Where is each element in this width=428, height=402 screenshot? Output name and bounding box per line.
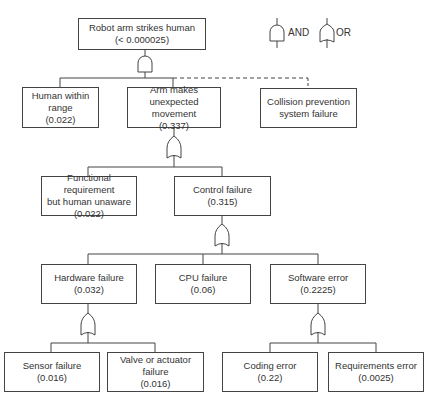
node-value: (0.06) [191, 284, 216, 296]
legend-and-label: AND [288, 27, 309, 38]
node-label: but human unaware [47, 196, 131, 208]
node-value: (0.016) [140, 378, 170, 390]
node-collision-prevention-failure: Collision prevention system failure [260, 88, 357, 128]
or-gate-icon [167, 136, 181, 158]
node-value: (< 0.000025) [115, 34, 169, 46]
legend-or-gate-icon [320, 18, 334, 48]
node-label: Valve or actuator failure [110, 354, 201, 378]
node-value: (0.0025) [358, 372, 393, 384]
legend-or-label: OR [336, 27, 351, 38]
node-value: (0.337) [159, 120, 189, 132]
node-label: Requirements error [335, 360, 417, 372]
fault-tree-diagram: AND OR Robot arm strikes human (< 0.0000… [0, 0, 428, 402]
node-value: (0.2225) [300, 284, 335, 296]
or-gate-icon [311, 313, 325, 335]
node-label: Human within [32, 90, 90, 102]
node-valve-actuator-failure: Valve or actuator failure (0.016) [107, 352, 204, 392]
node-label: Functional requirement [44, 172, 134, 196]
node-value: (0.022) [45, 114, 75, 126]
node-label: Software error [288, 272, 348, 284]
node-label: system failure [279, 108, 338, 120]
node-sensor-failure: Sensor failure (0.016) [4, 352, 100, 392]
node-label: Coding error [244, 360, 297, 372]
node-label: Hardware failure [54, 272, 124, 284]
node-arm-unexpected-movement: Arm makes unexpected movement (0.337) [127, 87, 221, 128]
or-gate-icon [215, 224, 229, 246]
node-hardware-failure: Hardware failure (0.032) [41, 264, 137, 304]
node-label: Arm makes unexpected [130, 84, 218, 108]
node-label: Sensor failure [23, 360, 82, 372]
node-human-within-range: Human within range (0.022) [22, 87, 99, 128]
node-value: (0.022) [74, 208, 104, 220]
node-coding-error: Coding error (0.22) [222, 352, 318, 392]
node-value: (0.315) [207, 196, 237, 208]
legend-and-gate-icon [270, 18, 284, 48]
node-label: Control failure [193, 184, 252, 196]
and-gate-icon [138, 56, 152, 72]
node-label: Robot arm strikes human [89, 22, 195, 34]
node-label: CPU failure [179, 272, 228, 284]
node-label: movement [152, 108, 196, 120]
node-control-failure: Control failure (0.315) [174, 176, 271, 216]
node-value: (0.22) [258, 372, 283, 384]
node-label: Collision prevention [267, 96, 350, 108]
node-requirements-error: Requirements error (0.0025) [328, 352, 424, 392]
node-value: (0.016) [37, 372, 67, 384]
node-cpu-failure: CPU failure (0.06) [155, 264, 251, 304]
node-value: (0.032) [74, 284, 104, 296]
node-top-event: Robot arm strikes human (< 0.000025) [78, 18, 206, 50]
node-software-error: Software error (0.2225) [270, 264, 366, 304]
node-label: range [48, 102, 72, 114]
node-functional-requirement: Functional requirement but human unaware… [41, 176, 137, 216]
or-gate-icon [81, 313, 95, 335]
